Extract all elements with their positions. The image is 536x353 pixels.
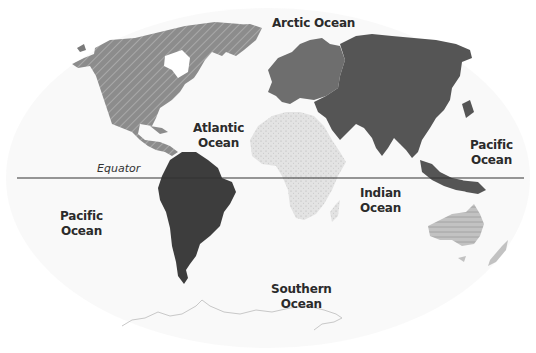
pacific-ocean-west-label: Pacific Ocean (60, 209, 103, 239)
equator-label: Equator (97, 162, 140, 175)
southern-ocean-label: Southern Ocean (271, 282, 332, 312)
indian-ocean-label: Indian Ocean (360, 186, 401, 216)
arctic-ocean-label: Arctic Ocean (272, 16, 355, 31)
world-map (0, 0, 536, 353)
atlantic-ocean-label: Atlantic Ocean (193, 121, 244, 151)
pacific-ocean-east-label: Pacific Ocean (470, 138, 513, 168)
